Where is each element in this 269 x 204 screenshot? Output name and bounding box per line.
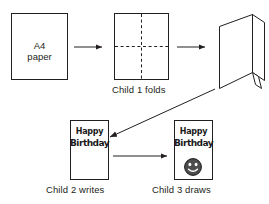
card-left-panel [220, 15, 253, 89]
standing-card-3d [220, 15, 265, 89]
child3-greeting-line1: Happy [174, 127, 213, 136]
caption-child1-folds: Child 1 folds [112, 84, 166, 95]
a4-paper-label-line2: paper [11, 51, 68, 63]
diagram-vector-layer [0, 0, 269, 204]
child3-greeting-line2: Birthday [174, 138, 213, 148]
smiley-face-icon [185, 159, 202, 176]
diagram-canvas: A4 paper Child 1 folds Child 2 writes Ch… [0, 0, 269, 204]
caption-child2-writes: Child 2 writes [46, 184, 104, 195]
caption-child3-draws: Child 3 draws [152, 184, 211, 195]
a4-paper-label-line1: A4 [11, 40, 68, 52]
child2-greeting-line1: Happy [70, 127, 109, 136]
child2-greeting-line2: Birthday [70, 138, 109, 148]
card-right-panel [253, 15, 265, 81]
